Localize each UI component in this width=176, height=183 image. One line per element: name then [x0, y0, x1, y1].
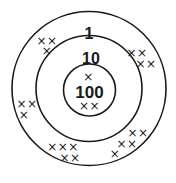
mark-bottom-right-row3: ×	[110, 147, 121, 161]
mark-center-bottom: ××	[79, 99, 100, 113]
target-diagram: 1 10 100 ×× × ×× ×× × ×× ×× × ××× ×× ×× …	[0, 0, 176, 183]
mark-bottom-left-row2: ××	[59, 151, 80, 165]
mark-top-right-row2: ××	[135, 57, 156, 71]
mark-top-left-row2: ×	[42, 44, 53, 58]
ring-label-10: 10	[82, 50, 100, 67]
ring-label-1: 1	[85, 25, 94, 42]
mark-left-row2: ×	[19, 108, 30, 122]
mark-center-top: ×	[83, 70, 94, 84]
